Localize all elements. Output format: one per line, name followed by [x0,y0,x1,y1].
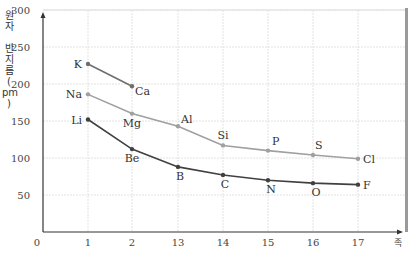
y-tick-label: 100 [11,153,30,164]
x-tick-label: 16 [307,237,320,248]
data-point [130,111,134,115]
y-axis-label: 원자반지름(pm) [2,10,16,109]
data-point [356,182,360,186]
element-label-o: O [311,186,320,199]
x-axis-label: 족 [394,238,402,248]
data-point [311,153,315,157]
element-label-b: B [176,170,184,183]
element-label-s: S [315,139,323,152]
element-label-f: F [363,179,371,192]
y-tick-label: 150 [11,116,30,127]
data-point [176,165,180,169]
data-point [356,157,360,161]
data-point [86,92,90,96]
data-point [86,62,90,66]
data-point [176,124,180,128]
y-axis-arrow-icon [41,12,46,18]
chart-canvas: 501001502002503001213141516170족KCaNaMgAl… [0,0,415,253]
element-label-ca: Ca [135,85,150,98]
element-label-al: Al [180,113,193,126]
data-point [266,148,270,152]
data-point [221,143,225,147]
x-tick-label: 15 [262,237,275,248]
y-tick-label: 50 [17,190,30,201]
element-label-li: Li [71,114,82,127]
element-label-n: N [266,183,276,196]
data-point [130,84,134,88]
element-label-mg: Mg [123,117,141,130]
x-tick-label: 1 [85,237,91,248]
data-point [130,147,134,151]
x-tick-label: 2 [129,237,135,248]
x-tick-label: 13 [172,237,185,248]
x-tick-label: 17 [352,237,365,248]
element-label-na: Na [66,88,83,101]
element-label-p: P [272,135,280,148]
element-label-si: Si [217,129,229,142]
element-label-k: K [74,58,83,71]
frame-right-edge [405,8,408,232]
series-line [88,64,132,86]
x-axis-arrow-icon [397,230,403,235]
data-point [221,173,225,177]
element-label-be: Be [125,152,140,165]
data-point [86,117,90,121]
data-point [311,181,315,185]
element-label-cl: Cl [363,153,375,166]
x-tick-label: 14 [217,237,230,248]
atomic-radius-chart: 원자반지름(pm) 501001502002503001213141516170… [0,0,415,253]
data-point [266,178,270,182]
element-label-c: C [221,178,229,191]
origin-label: 0 [34,237,40,248]
